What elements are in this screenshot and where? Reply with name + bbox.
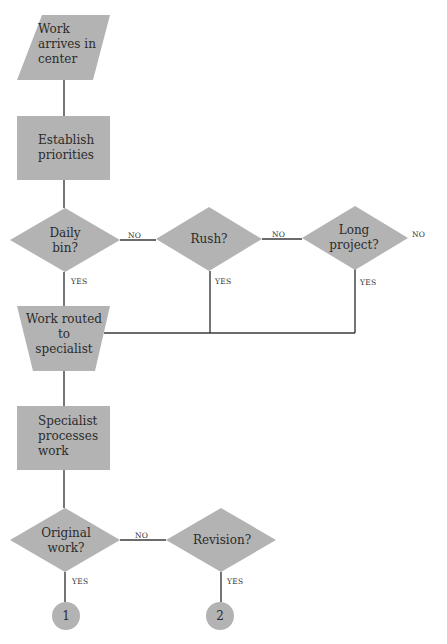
- edge-label-long-no: NO: [412, 230, 425, 239]
- edge-label-daily-yes: YES: [71, 277, 87, 286]
- edge-label-original-no: NO: [135, 531, 148, 540]
- label-line: Work: [38, 22, 96, 37]
- label-line: project?: [316, 238, 392, 253]
- label-line: work: [38, 444, 98, 459]
- label-line: to: [22, 327, 106, 342]
- label-line: priorities: [38, 148, 94, 163]
- label-long-project: Long project?: [316, 223, 392, 253]
- label-line: Work routed: [22, 312, 106, 327]
- label-line: Revision?: [180, 533, 264, 548]
- label-line: bin?: [30, 241, 100, 256]
- label-connector-2: 2: [210, 609, 230, 624]
- label-line: Daily: [30, 226, 100, 241]
- label-line: Specialist: [38, 414, 98, 429]
- edge-label-rush-no: NO: [272, 230, 285, 239]
- edge-label-revision-yes: YES: [227, 577, 243, 586]
- label-line: processes: [38, 429, 98, 444]
- label-connector-1: 1: [56, 609, 76, 624]
- label-line: Original: [28, 526, 104, 541]
- label-line: Rush?: [174, 232, 244, 247]
- label-line: specialist: [22, 342, 106, 357]
- edge-label-daily-no: NO: [128, 231, 141, 240]
- label-routed: Work routed to specialist: [22, 312, 106, 357]
- label-line: Long: [316, 223, 392, 238]
- label-original: Original work?: [28, 526, 104, 556]
- edge-label-rush-yes: YES: [215, 277, 231, 286]
- edge-label-long-yes: YES: [360, 278, 376, 287]
- label-line: center: [38, 52, 96, 67]
- label-daily-bin: Daily bin?: [30, 226, 100, 256]
- label-rush: Rush?: [174, 232, 244, 247]
- label-line: arrives in: [38, 37, 96, 52]
- label-processes: Specialist processes work: [38, 414, 98, 459]
- label-line: Establish: [38, 133, 94, 148]
- label-establish: Establish priorities: [38, 133, 94, 163]
- edge-label-original-yes: YES: [72, 577, 88, 586]
- label-revision: Revision?: [180, 533, 264, 548]
- label-work-arrives: Work arrives in center: [38, 22, 96, 67]
- label-line: work?: [28, 541, 104, 556]
